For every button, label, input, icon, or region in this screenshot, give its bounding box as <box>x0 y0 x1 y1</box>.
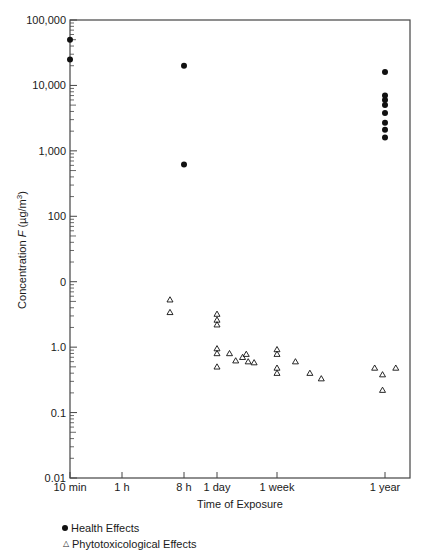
data-points <box>67 37 399 393</box>
y-tick-label: 100,000 <box>26 14 66 26</box>
phytotoxic-effect-point <box>240 354 246 359</box>
legend: Health Effects △ Phytotoxicological Effe… <box>62 520 197 552</box>
phytotoxic-effect-point <box>307 370 313 375</box>
phytotoxic-effect-point <box>243 351 249 356</box>
health-effect-point <box>382 127 388 133</box>
x-axis-title: Time of Exposure <box>197 498 283 510</box>
y-tick-label: 10,000 <box>32 79 66 91</box>
phytotoxic-effect-point <box>233 358 239 363</box>
legend-item-phyto: △ Phytotoxicological Effects <box>62 536 197 552</box>
health-effect-point <box>67 37 73 43</box>
y-tick-label: 0.1 <box>51 407 66 419</box>
x-tick-label: 1 year <box>370 481 401 493</box>
x-tick-label: 1 day <box>204 481 231 493</box>
y-axis-title: Concentration F (µg/m3) <box>15 191 28 309</box>
phytotoxic-effect-point <box>245 359 251 364</box>
phytotoxic-effect-point <box>372 365 378 370</box>
phytotoxic-effect-point <box>274 370 280 375</box>
phytotoxic-effect-point <box>393 365 399 370</box>
y-tick-label: 1.0 <box>51 341 66 353</box>
filled-circle-icon <box>62 525 68 531</box>
phytotoxic-effect-point <box>292 359 298 364</box>
y-tick-label: 100 <box>48 210 66 222</box>
x-tick-label: 1 h <box>114 481 129 493</box>
phytotoxic-effect-point <box>318 376 324 381</box>
phytotoxic-effect-point <box>214 350 220 355</box>
health-effect-point <box>382 69 388 75</box>
x-tick-label: 8 h <box>176 481 191 493</box>
plot-frame <box>70 20 410 478</box>
y-axis: 100,00010,0001,00010001.00.10.01 <box>26 14 77 484</box>
phytotoxic-effect-point <box>167 297 173 302</box>
health-effect-point <box>382 110 388 116</box>
x-tick-label: 1 week <box>260 481 295 493</box>
x-tick-label: 10 min <box>53 481 86 493</box>
health-effect-point <box>382 97 388 103</box>
health-effect-point <box>181 63 187 69</box>
health-effect-point <box>382 120 388 126</box>
legend-label: Health Effects <box>71 520 139 536</box>
scatter-chart: 100,00010,0001,00010001.00.10.01 10 min1… <box>0 0 425 560</box>
phytotoxic-effect-point <box>227 350 233 355</box>
x-axis: 10 min1 h8 h1 day1 week1 year <box>53 472 400 493</box>
legend-label: Phytotoxicological Effects <box>72 536 197 552</box>
y-tick-label: 0 <box>60 276 66 288</box>
phytotoxic-effect-point <box>214 364 220 369</box>
phytotoxic-effect-point <box>214 311 220 316</box>
phytotoxic-effect-point <box>167 309 173 314</box>
phytotoxic-effect-point <box>380 387 386 392</box>
phytotoxic-effect-point <box>380 372 386 377</box>
health-effect-point <box>382 135 388 141</box>
legend-item-health: Health Effects <box>62 520 197 536</box>
y-tick-label: 1,000 <box>38 145 66 157</box>
phytotoxic-effect-point <box>251 360 257 365</box>
health-effect-point <box>382 102 388 108</box>
health-effect-point <box>181 161 187 167</box>
health-effect-point <box>67 56 73 62</box>
triangle-icon: △ <box>62 536 69 552</box>
